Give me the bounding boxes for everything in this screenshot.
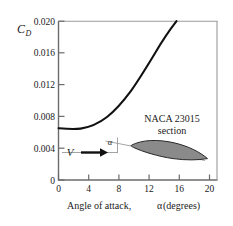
x-axis-title-suffix: (degrees) [163,200,200,212]
figure-container: 0 0.004 0.008 0.012 0.016 0.020 0 4 8 12… [0,0,233,226]
angle-of-attack-label: α [108,137,113,147]
drag-coefficient-chart: 0 0.004 0.008 0.012 0.016 0.020 0 4 8 12… [0,0,233,226]
y-tick-label-0.020: 0.020 [34,17,56,27]
x-tick-label-0: 0 [56,184,61,194]
x-tick-label-16: 16 [175,184,185,194]
naca-label-line1: NACA 23015 [144,113,199,124]
y-tick-label-0.008: 0.008 [34,112,56,122]
x-tick-label-8: 8 [117,184,122,194]
y-tick-label-0.012: 0.012 [34,80,56,90]
y-tick-label-0.016: 0.016 [34,48,56,58]
naca-label-line2: section [158,125,186,136]
x-tick-label-12: 12 [144,184,154,194]
x-tick-label-20: 20 [205,184,215,194]
x-axis-title-prefix: Angle of attack, [67,200,131,211]
y-tick-label-0.004: 0.004 [34,144,56,154]
x-tick-label-4: 4 [86,184,91,194]
y-axis-title-subscript: D [25,29,32,38]
y-tick-label-0: 0 [50,176,55,186]
